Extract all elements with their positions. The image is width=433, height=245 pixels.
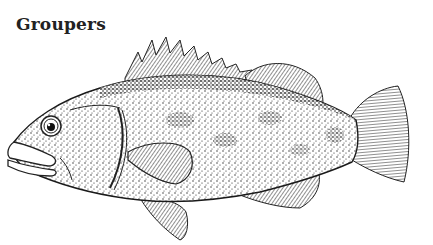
pelvic-fin [140,198,188,240]
grouper-illustration [0,0,433,245]
eye [41,116,61,136]
illustration-canvas: Groupers [0,0,433,245]
tail-fin [350,86,409,182]
